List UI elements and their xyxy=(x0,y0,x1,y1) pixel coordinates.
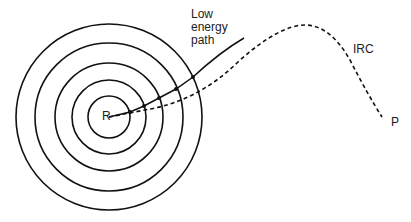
product-label: P xyxy=(391,116,399,129)
low-energy-path-line xyxy=(109,38,244,117)
reactant-label: R xyxy=(102,110,111,123)
irc-label: IRC xyxy=(353,43,374,56)
label-line: path xyxy=(191,34,228,47)
low-energy-path-label: Low energy path xyxy=(191,8,228,47)
diagram: Low energy path IRC R P xyxy=(0,0,411,222)
